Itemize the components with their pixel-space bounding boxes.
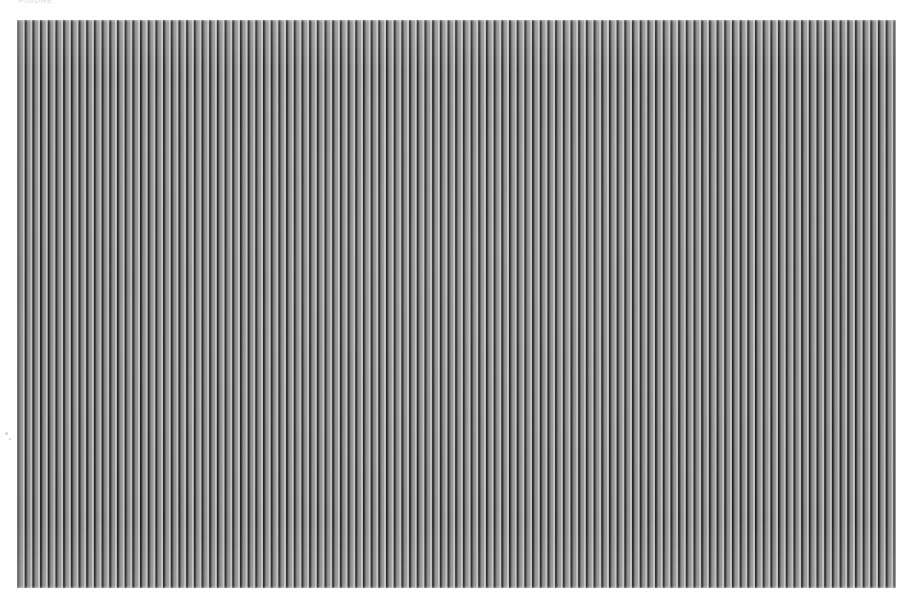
vertical-stripe-grating bbox=[17, 20, 896, 588]
scan-page: FIGURE bbox=[0, 0, 912, 610]
figure-caption: FIGURE bbox=[19, 0, 53, 5]
scan-speck bbox=[9, 438, 11, 440]
scan-speck bbox=[5, 432, 8, 435]
